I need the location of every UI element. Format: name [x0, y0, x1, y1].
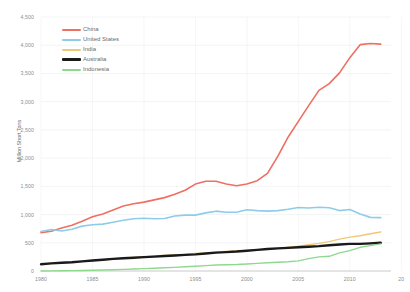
y-axis-tick-label: 500 [6, 240, 34, 246]
x-axis-tick-label: 2005 [283, 276, 313, 282]
x-axis-tick-label: 1985 [77, 276, 107, 282]
x-axis-tick-label: 20 [386, 276, 410, 282]
legend-item-australia[interactable]: Australia [62, 56, 119, 63]
legend-label: Indonesia [83, 66, 109, 73]
legend-color-swatch [62, 29, 81, 31]
series-line-indonesia [41, 244, 381, 271]
legend-color-swatch [62, 49, 81, 51]
series-line-australia [41, 243, 381, 264]
coal-production-line-chart: 05001,0001,5002,0002,5003,0003,5004,0004… [0, 0, 410, 292]
x-axis-tick-label: 1980 [26, 276, 56, 282]
legend-color-swatch [62, 69, 81, 71]
y-axis-tick-label: 4,500 [6, 14, 34, 20]
legend-item-china[interactable]: China [62, 26, 119, 33]
legend-label: Australia [83, 56, 106, 63]
series-lines [41, 44, 381, 271]
x-axis-tick-label: 1990 [129, 276, 159, 282]
series-line-united-states [41, 207, 381, 231]
legend-item-united-states[interactable]: United States [62, 36, 119, 43]
y-axis-tick-label: 1,000 [6, 212, 34, 218]
legend-color-swatch [62, 58, 81, 61]
x-axis-tick-label: 2010 [335, 276, 365, 282]
y-axis-title: Million Short Tons [16, 96, 22, 186]
series-line-india [41, 232, 381, 264]
chart-legend: ChinaUnited StatesIndiaAustraliaIndonesi… [62, 26, 119, 73]
y-axis-tick-label: 4,000 [6, 42, 34, 48]
x-axis-tick-label: 2000 [232, 276, 262, 282]
x-axis-tick-label: 1995 [180, 276, 210, 282]
legend-item-indonesia[interactable]: Indonesia [62, 66, 119, 73]
y-axis-tick-label: 3,500 [6, 70, 34, 76]
legend-label: India [83, 46, 96, 53]
legend-label: China [83, 26, 99, 33]
y-axis-tick-label: 0 [6, 268, 34, 274]
legend-item-india[interactable]: India [62, 46, 119, 53]
legend-label: United States [83, 36, 119, 43]
legend-color-swatch [62, 39, 81, 41]
